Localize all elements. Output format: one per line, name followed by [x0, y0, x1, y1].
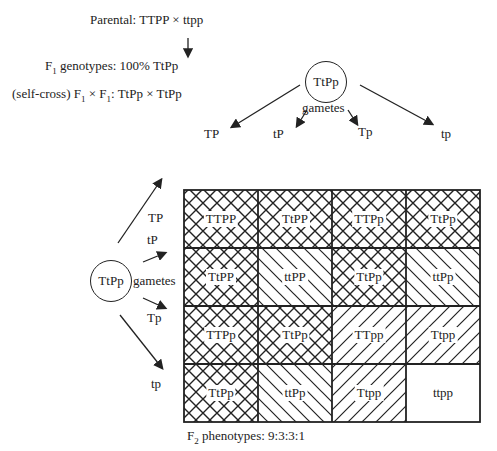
- left-gamete-3: Tp: [147, 310, 161, 326]
- top-gamete-3: Tp: [358, 124, 372, 140]
- grid-cell-2-1: TtPp: [280, 327, 309, 343]
- top-gametes-label: gametes: [302, 100, 345, 116]
- top-gamete-2: tP: [273, 126, 284, 142]
- grid-cell-3-3: ttpp: [431, 385, 455, 401]
- grid-cell-0-1: TtPP: [280, 211, 310, 227]
- top-gamete-4: tp: [441, 126, 451, 142]
- grid-cell-1-1: ttPP: [282, 269, 308, 285]
- grid-cell-2-0: TTPp: [204, 327, 238, 343]
- left-gamete-4: tp: [151, 376, 161, 392]
- grid-cell-1-2: TtPp: [354, 269, 383, 285]
- grid-cell-1-3: ttPp: [431, 269, 456, 285]
- grid-cell-0-3: TtPp: [428, 211, 457, 227]
- grid-cell-2-2: TTpp: [353, 327, 386, 343]
- grid-cell-0-2: TTPp: [352, 211, 386, 227]
- left-gamete-1: TP: [148, 210, 163, 226]
- top-gamete-1: TP: [204, 126, 219, 142]
- left-gamete-2: tP: [147, 232, 158, 248]
- grid-cell-1-0: TtPP: [206, 269, 236, 285]
- grid-cell-3-0: TtPp: [206, 385, 235, 401]
- left-gametes-label: gametes: [133, 273, 176, 289]
- f1-genotypes: F1 genotypes: 100% TtPp: [45, 58, 178, 76]
- grid-cell-3-2: Ttpp: [355, 385, 384, 401]
- top-parent-circle: TtPp: [305, 61, 347, 103]
- self-cross: (self-cross) F1 × F1: TtPp × TtPp: [12, 86, 182, 104]
- left-parent-circle: TtPp: [90, 260, 132, 302]
- grid-cell-0-0: TTPP: [204, 211, 238, 227]
- parental-cross: Parental: TTPP × ttpp: [90, 12, 203, 28]
- grid-cell-3-1: ttPp: [283, 385, 308, 401]
- grid-cell-2-3: Ttpp: [429, 327, 458, 343]
- f2-phenotypes: F2 phenotypes: 9:3:3:1: [187, 428, 305, 446]
